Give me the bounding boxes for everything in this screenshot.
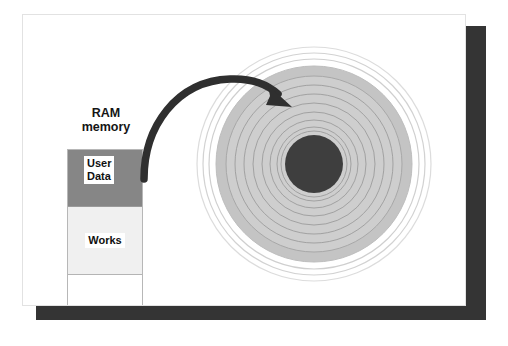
ram-cell-works-label: Works: [85, 233, 124, 248]
diagram-canvas: RAM memory User Data Works: [0, 0, 508, 346]
page-sheet: RAM memory User Data Works: [22, 14, 466, 306]
ram-cell-free-space: [68, 275, 142, 305]
transfer-arrow-curve: [144, 79, 278, 179]
ram-cell-user-data-label: User Data: [84, 156, 114, 184]
ram-cell-free-space-label: [102, 289, 108, 291]
transfer-arrow-head: [266, 85, 292, 107]
ram-cell-works: Works: [68, 207, 142, 275]
transfer-arrow: [118, 65, 308, 190]
